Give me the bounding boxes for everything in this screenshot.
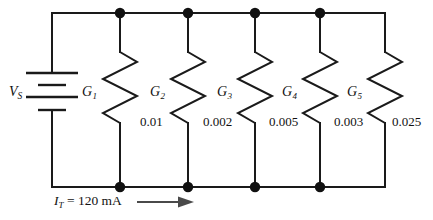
branch-1-label: G1 (82, 85, 97, 101)
source-label: VS (9, 85, 22, 101)
branch-5 (368, 13, 402, 187)
branch-2-label-symbol: G (150, 84, 160, 99)
branch-4 (303, 13, 337, 187)
branch-3-value: 0.005 (269, 115, 298, 128)
node-dot-top-2 (183, 8, 193, 18)
total-current-unit: mA (102, 193, 122, 208)
branch-1-label-symbol: G (82, 84, 92, 99)
branch-1-resistor (103, 52, 137, 123)
branch-3-resistor (238, 52, 272, 123)
branch-2 (171, 13, 205, 187)
branch-4-resistor (303, 52, 337, 123)
current-arrow-head (178, 197, 194, 208)
total-current-label: IT = 120 mA (54, 194, 122, 210)
branch-5-value: 0.025 (392, 115, 421, 128)
branch-5-label-symbol: G (347, 84, 357, 99)
node-dot-top-1 (115, 8, 125, 18)
node-dot-top-4 (315, 8, 325, 18)
circuit-diagram: VS G1 G2 G3 G4 G5 0.01 0.002 0.005 0.003… (0, 0, 433, 220)
source-label-subscript: S (18, 91, 23, 101)
node-dot-bottom-4 (315, 182, 325, 192)
branch-1-value: 0.01 (140, 115, 163, 128)
branch-5-label: G5 (347, 85, 362, 101)
branch-2-value: 0.002 (203, 115, 232, 128)
branch-1 (103, 13, 137, 187)
branch-5-label-subscript: 5 (357, 91, 362, 101)
branch-3-label-subscript: 3 (227, 91, 232, 101)
total-current-operator: = (67, 193, 75, 208)
branch-3-label: G3 (217, 85, 232, 101)
branch-5-resistor (368, 52, 402, 123)
node-dot-bottom-1 (115, 182, 125, 192)
node-dot-bottom-2 (183, 182, 193, 192)
source-label-symbol: V (9, 84, 18, 99)
node-dot-bottom-3 (250, 182, 260, 192)
branch-4-label: G4 (282, 85, 297, 101)
source-branch (26, 13, 78, 187)
branch-2-label-subscript: 2 (160, 91, 165, 101)
circuit-schematic-svg (0, 0, 433, 220)
node-dot-top-3 (250, 8, 260, 18)
branch-4-label-symbol: G (282, 84, 292, 99)
branch-3-label-symbol: G (217, 84, 227, 99)
branch-3 (238, 13, 272, 187)
branch-2-resistor (171, 52, 205, 123)
current-arrow-icon (137, 197, 194, 208)
branch-2-label: G2 (150, 85, 165, 101)
branch-1-label-subscript: 1 (92, 91, 97, 101)
total-current-value: 120 (78, 193, 98, 208)
branch-4-label-subscript: 4 (292, 91, 297, 101)
branch-4-value: 0.003 (334, 115, 363, 128)
